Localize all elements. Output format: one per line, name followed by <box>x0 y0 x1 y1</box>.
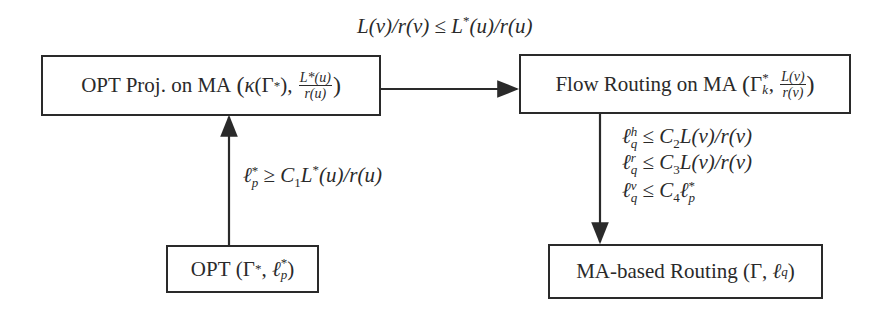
rest-expr: L(v)/r(v) <box>680 150 752 174</box>
C-symbol: C <box>659 150 673 174</box>
C-symbol: C <box>659 178 673 202</box>
ell-symbol: ℓ <box>272 257 281 282</box>
geq-operator: ≥ <box>258 163 280 187</box>
edge-label-left: ℓ*p ≥ C1L*(u)/r(u) <box>243 163 382 189</box>
q-sub: q <box>781 264 788 279</box>
opt-proj-on-ma-box: OPT Proj. on MA (κ(Γ*), L*(u)r(u)) <box>41 55 381 116</box>
gamma-symbol: Γ <box>750 259 762 284</box>
lhs-expr: L(v)/r(v) <box>357 14 429 38</box>
ell-symbol: ℓ <box>773 259 782 284</box>
fraction-numerator: L*(u) <box>299 70 332 86</box>
ell-symbol: ℓ <box>243 163 252 187</box>
edge-label-right-2: ℓrq ≤ C3L(v)/r(v) <box>622 150 752 176</box>
fraction-L-star-over-r: L*(u)r(u) <box>299 70 332 101</box>
fraction-denominator: r(v) <box>781 85 804 100</box>
gamma-symbol: Γ <box>262 73 274 98</box>
ell-symbol: ℓ <box>622 178 631 202</box>
opt-title: OPT <box>191 257 231 282</box>
C-symbol: C <box>280 163 294 187</box>
flow-routing-on-ma-box: Flow Routing on MA (Γ*k, L(v)r(v)) <box>519 54 851 114</box>
p-sub: p <box>281 269 288 281</box>
opt-proj-title: OPT Proj. on MA <box>81 73 231 98</box>
edge-label-right-3: ℓvq ≤ C4ℓ*p <box>622 178 695 204</box>
leq-operator: ≤ <box>637 124 659 148</box>
edge-label-top: L(v)/r(v) ≤ L*(u)/r(u) <box>357 14 533 39</box>
fraction-denominator: r(u) <box>303 86 327 101</box>
L-symbol: L <box>451 14 463 38</box>
gamma-symbol: Γ <box>750 72 762 97</box>
ell-symbol: ℓ <box>622 124 631 148</box>
rest-expr: L(v)/r(v) <box>680 124 752 148</box>
flow-routing-title: Flow Routing on MA <box>555 72 736 97</box>
ell-symbol: ℓ <box>680 178 689 202</box>
rhs-expr: (u)/r(u) <box>470 14 533 38</box>
L-symbol: L <box>301 163 313 187</box>
leq-operator: ≤ <box>637 150 659 174</box>
edge-label-right-1: ℓhq ≤ C2L(v)/r(v) <box>622 124 752 150</box>
ma-based-routing-box: MA-based Routing (Γ, ℓq) <box>548 244 823 299</box>
kappa-symbol: κ <box>245 73 255 98</box>
gamma-symbol: Γ <box>243 257 255 282</box>
ma-routing-title: MA-based Routing <box>576 259 738 284</box>
k-sub: k <box>762 84 769 96</box>
fraction-numerator: L(v) <box>780 69 805 85</box>
rest-expr: (u)/r(u) <box>319 163 382 187</box>
leq-operator: ≤ <box>637 178 659 202</box>
opt-box: OPT (Γ*, ℓ*p) <box>166 245 319 293</box>
ell-symbol: ℓ <box>622 150 631 174</box>
fraction-L-over-r: L(v)r(v) <box>780 69 805 100</box>
p-sub: p <box>689 192 696 204</box>
leq-operator: ≤ <box>429 14 451 38</box>
C-symbol: C <box>659 124 673 148</box>
